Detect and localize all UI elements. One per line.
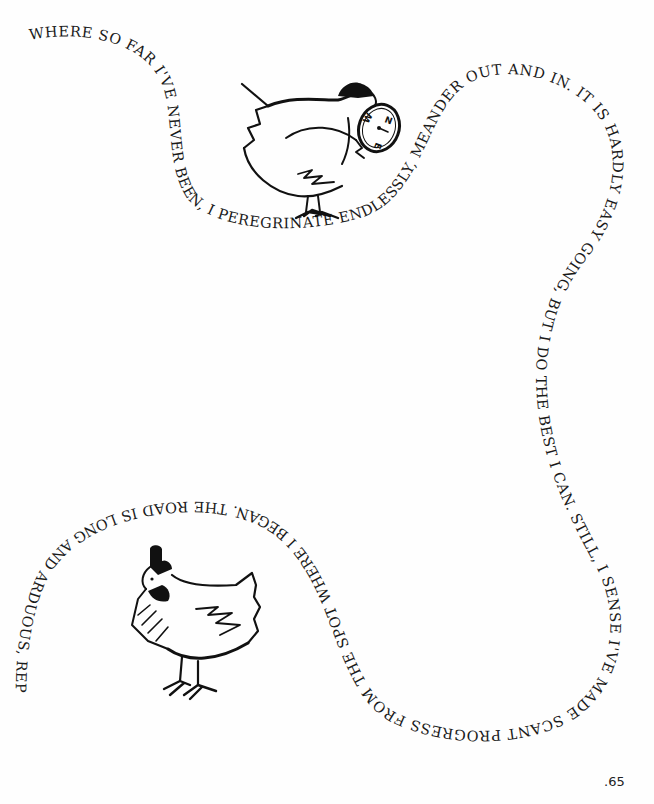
winding-text-path: WHERE SO FAR I'VE NEVER BEEN, I PEREGRIN… — [0, 0, 654, 804]
flowing-text: WHERE SO FAR I'VE NEVER BEEN, I PEREGRIN… — [0, 0, 626, 744]
standing-hen-illustration — [132, 545, 260, 699]
page-number: .65 — [604, 774, 625, 789]
book-page: WHERE SO FAR I'VE NEVER BEEN, I PEREGRIN… — [0, 0, 654, 804]
flowing-text-path: WHERE SO FAR I'VE NEVER BEEN, I PEREGRIN… — [0, 0, 626, 744]
